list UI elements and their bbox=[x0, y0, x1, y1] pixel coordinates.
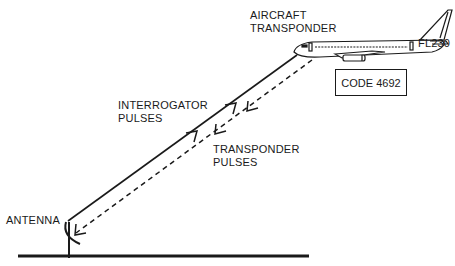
squawk-code-box: CODE 4692 bbox=[335, 69, 407, 96]
transponder-arrow-2 bbox=[247, 101, 258, 111]
diagram-graphics bbox=[0, 0, 455, 266]
transponder-label-line1: TRANSPONDER bbox=[213, 143, 300, 156]
aircraft-label-line2: TRANSPONDER bbox=[250, 22, 337, 35]
transponder-diagram: AIRCRAFT TRANSPONDER FL230 CODE 4692 INT… bbox=[0, 0, 455, 266]
flight-level-label: FL230 bbox=[418, 37, 450, 50]
squawk-code: CODE 4692 bbox=[341, 77, 400, 89]
transponder-label-line2: PULSES bbox=[213, 156, 258, 169]
aircraft-icon bbox=[294, 10, 452, 61]
interrogator-arrow-2 bbox=[225, 103, 236, 114]
antenna-dish bbox=[65, 222, 80, 244]
interrogator-label-line2: PULSES bbox=[118, 112, 163, 125]
aircraft-label-line1: AIRCRAFT bbox=[250, 9, 307, 22]
interrogator-pulse-line bbox=[68, 55, 297, 221]
interrogator-arrow-1 bbox=[186, 131, 197, 142]
antenna-label: ANTENNA bbox=[6, 214, 60, 227]
interrogator-label-line1: INTERROGATOR bbox=[118, 99, 208, 112]
